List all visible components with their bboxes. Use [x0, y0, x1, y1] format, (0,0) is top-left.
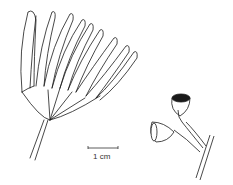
scale-bar	[88, 146, 118, 149]
scale-bar-label: 1 cm	[93, 152, 110, 161]
botanical-illustration	[0, 0, 233, 185]
flower-cluster	[21, 11, 137, 160]
fruit-branch	[151, 94, 214, 180]
